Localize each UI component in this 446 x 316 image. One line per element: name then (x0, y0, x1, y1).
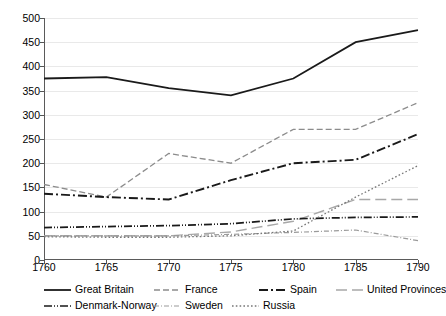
y-tick-label: 50 (28, 231, 40, 242)
y-tick-label: 500 (22, 13, 40, 24)
legend-row: Denmark-NorwaySwedenRussia (44, 298, 430, 313)
y-tick-label: 300 (22, 110, 40, 121)
legend-swatch-icon (232, 301, 259, 311)
y-tick-label: 400 (22, 61, 40, 72)
legend-item-united-provinces[interactable]: United Provinces (336, 282, 446, 297)
series-line-russia (44, 166, 418, 238)
legend-swatch-icon (154, 301, 181, 311)
y-tick-label: 250 (22, 134, 40, 145)
series-line-spain (44, 134, 418, 199)
y-tick-label: 150 (22, 182, 40, 193)
legend-item-great-britain[interactable]: Great Britain (44, 282, 134, 297)
x-tick-label: 1760 (32, 262, 55, 273)
series-line-denmark-norway (44, 217, 418, 228)
legend-label: Denmark-Norway (75, 300, 157, 311)
legend-label: Spain (290, 284, 317, 295)
chart-legend: Great BritainFranceSpainUnited Provinces… (44, 282, 430, 314)
legend-swatch-icon (44, 285, 71, 295)
y-tick-label: 200 (22, 158, 40, 169)
legend-row: Great BritainFranceSpainUnited Provinces (44, 282, 430, 297)
series-line-united-provinces (44, 200, 418, 236)
plot-area (44, 18, 418, 260)
x-tick-label: 1765 (95, 262, 118, 273)
legend-item-spain[interactable]: Spain (259, 282, 317, 297)
legend-item-denmark-norway[interactable]: Denmark-Norway (44, 298, 157, 313)
legend-label: Sweden (185, 300, 223, 311)
x-axis-labels: 1760176517701775178017851790 (44, 262, 418, 278)
x-tick-label: 1775 (219, 262, 242, 273)
x-tick-label: 1785 (344, 262, 367, 273)
x-tick-label: 1770 (157, 262, 180, 273)
legend-item-russia[interactable]: Russia (232, 298, 295, 313)
legend-label: United Provinces (367, 284, 446, 295)
series-lines (44, 18, 418, 260)
legend-label: France (185, 284, 218, 295)
legend-label: Great Britain (75, 284, 134, 295)
legend-item-sweden[interactable]: Sweden (154, 298, 223, 313)
y-tick-label: 100 (22, 206, 40, 217)
y-tick-label: 350 (22, 85, 40, 96)
legend-swatch-icon (336, 285, 363, 295)
y-axis-labels: 050100150200250300350400450500 (0, 18, 40, 260)
series-line-great-britain (44, 30, 418, 95)
legend-label: Russia (263, 300, 295, 311)
legend-item-france[interactable]: France (154, 282, 218, 297)
legend-swatch-icon (44, 301, 71, 311)
x-tick-label: 1790 (406, 262, 429, 273)
x-tick-label: 1780 (282, 262, 305, 273)
series-line-france (44, 103, 418, 197)
legend-swatch-icon (154, 285, 181, 295)
y-tick-label: 450 (22, 37, 40, 48)
legend-swatch-icon (259, 285, 286, 295)
